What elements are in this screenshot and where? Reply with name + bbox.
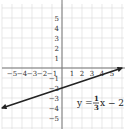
x-tick-label: −5 <box>7 70 17 78</box>
x-tick-label: −3 <box>27 70 37 78</box>
equation-denominator: 3 <box>94 103 99 112</box>
x-tick-label: −2 <box>37 70 47 78</box>
y-tick-label: 4 <box>55 25 60 33</box>
y-tick-label: 3 <box>55 35 59 43</box>
equation-lhs: y = <box>76 98 93 108</box>
axes <box>2 0 125 129</box>
y-tick-label: −1 <box>49 75 59 83</box>
coordinate-plane: −5−4−3−2−112345 54321−1−2−3−4−5 y = 1 3 … <box>0 0 131 129</box>
y-tick-label: −3 <box>49 95 59 103</box>
y-tick-label: −4 <box>49 105 60 113</box>
x-tick-labels: −5−4−3−2−112345 <box>7 70 114 78</box>
y-tick-label: −5 <box>49 115 59 123</box>
equation-label: y = 1 3 x − 2 <box>76 94 124 112</box>
x-tick-label: 1 <box>70 70 74 78</box>
y-tick-label: 2 <box>55 45 59 53</box>
y-tick-label: 5 <box>55 15 59 23</box>
grid-lines <box>2 4 124 129</box>
x-tick-label: 2 <box>80 70 84 78</box>
equation-rhs: x − 2 <box>100 98 124 108</box>
y-tick-label: 1 <box>55 55 59 63</box>
equation-numerator: 1 <box>94 94 99 103</box>
